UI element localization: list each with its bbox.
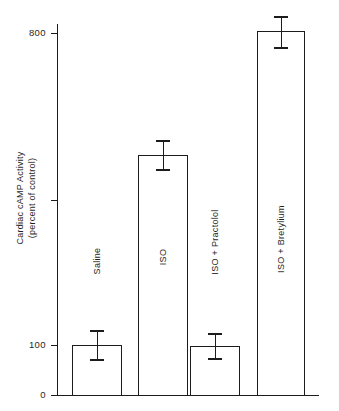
y-axis-line — [57, 24, 58, 396]
error-bar-cap-upper — [274, 16, 288, 18]
y-axis-title: Cardiac cAMP Activity (percent of contro… — [14, 138, 38, 258]
y-axis-tick — [51, 200, 58, 201]
y-axis-tick-label: 100 — [0, 339, 46, 350]
error-bar-cap-lower — [156, 169, 170, 171]
y-axis-tick-label: 0 — [0, 389, 46, 400]
bar-category-label: ISO + Bretylium — [276, 184, 286, 294]
error-bar-cap-lower — [208, 358, 222, 360]
error-bar-cap-upper — [156, 140, 170, 142]
error-bar-cap-lower — [274, 47, 288, 49]
y-axis-title-line1: Cardiac cAMP Activity — [14, 138, 26, 258]
y-axis-title-line2: (percent of control) — [26, 138, 38, 258]
error-bar-stem — [163, 140, 164, 169]
bar-category-label: Saline — [92, 206, 102, 316]
x-axis-line — [57, 395, 319, 396]
y-axis-tick — [51, 345, 58, 346]
y-axis-tick-label: 800 — [0, 27, 46, 38]
error-bar-stem — [97, 330, 98, 359]
chart-figure: 8001000 Cardiac cAMP Activity (percent o… — [0, 0, 339, 411]
error-bar-cap-upper — [208, 333, 222, 335]
error-bar-cap-upper — [90, 330, 104, 332]
y-axis-tick — [51, 395, 58, 396]
bar-category-label: ISO + Practolol — [210, 187, 220, 297]
bar-category-label: ISO — [158, 202, 168, 312]
error-bar-cap-lower — [90, 359, 104, 361]
error-bar-stem — [215, 333, 216, 358]
y-axis-tick — [51, 33, 58, 34]
error-bar-stem — [281, 16, 282, 47]
